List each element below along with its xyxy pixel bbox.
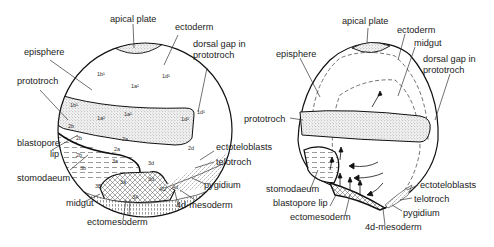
cell-1d1: 1d¹ (162, 73, 170, 79)
cell-2b: 2b (68, 123, 74, 129)
cell-4D: 4D (159, 186, 166, 192)
label-episphere-right: episphere (276, 49, 316, 59)
label-ectomesoderm-right: ectomesoderm (290, 212, 351, 222)
cell-4d: 4d (172, 184, 178, 190)
label-apical-plate-left: apical plate (110, 14, 156, 24)
cell-2d: 2d (188, 145, 194, 151)
label-pygidium-right: pygidium (403, 208, 440, 218)
prototroch-band-right (300, 111, 430, 142)
cell-3A: 3A (132, 194, 139, 200)
cell-1b1-prototroch: 1b¹ (70, 102, 78, 108)
cell-2a: 2a (122, 136, 129, 142)
right-embryo: apical plate ectoderm midgut episphere d… (244, 16, 477, 232)
ectomesoderm-region-right (330, 183, 385, 210)
label-stomodaeum-left: stomodaeum (17, 173, 70, 183)
label-midgut-right: midgut (414, 38, 442, 48)
cell-3B: 3B (95, 183, 102, 189)
ectoteloblast-region-right (385, 185, 412, 208)
label-blastopore-left-2: lip (50, 149, 59, 159)
cell-1a1: 1a¹ (131, 83, 139, 89)
label-telotroch-left: telotroch (216, 157, 251, 167)
cell-2b-3: 2b (76, 152, 82, 158)
label-4d-mesoderm-left: 4d-mesoderm (176, 200, 233, 210)
cell-1b1: 1b¹ (97, 71, 105, 77)
apical-plate-region-right (352, 42, 390, 52)
label-dorsal-gap-right-2: prototroch (423, 65, 464, 75)
label-blastopore-left-1: blastopore (17, 138, 60, 148)
label-ectoteloblasts-left: ectoteloblasts (216, 142, 273, 152)
label-dorsal-gap-left-1: dorsal gap in (193, 39, 246, 49)
cell-1a2: 1a² (97, 115, 105, 121)
label-ectomesoderm-left: ectomesoderm (87, 217, 148, 227)
cell-3d: 3d (148, 160, 154, 166)
label-episphere-left: episphere (24, 47, 64, 57)
label-blastopore-lip-right: blastopore lip (273, 198, 328, 208)
label-dorsal-gap-left-2: prototroch (193, 50, 234, 60)
cell-3b: 3b (80, 165, 86, 171)
label-telotroch-right: telotroch (414, 194, 449, 204)
cell-3a: 3a (112, 158, 119, 164)
label-prototroch-right: prototroch (244, 114, 285, 124)
label-4d-mesoderm-right: 4d-mesoderm (365, 222, 422, 232)
left-embryo: 1b¹ 1a¹ 1d¹ 1d¹ 1b¹ 1a² 1a¹ 1d² 2b 2b 2a… (17, 14, 273, 230)
cell-2a-2: 2a (114, 146, 121, 152)
cell-3d-2: 3d (148, 176, 154, 182)
label-stomodaeum-right: stomodaeum (266, 184, 319, 194)
cell-1d2: 1d² (181, 116, 189, 122)
label-ectoderm-right: ectoderm (397, 25, 436, 35)
label-pygidium-left: pygidium (204, 180, 241, 190)
migration-arrows (330, 91, 383, 196)
label-ectoderm-left: ectoderm (175, 22, 214, 32)
label-midgut-left: midgut (66, 198, 94, 208)
diagram-canvas: 1b¹ 1a¹ 1d¹ 1d¹ 1b¹ 1a² 1a¹ 1d² 2b 2b 2a… (0, 0, 494, 247)
stomodaeum-region-right (304, 147, 339, 183)
label-dorsal-gap-right-1: dorsal gap in (423, 54, 476, 64)
cell-1a1-prototroch: 1a¹ (124, 111, 132, 117)
label-apical-plate-right: apical plate (342, 16, 388, 26)
label-prototroch-left: prototroch (17, 76, 58, 86)
label-ectoteloblasts-right: ectoteloblasts (420, 180, 477, 190)
cell-3a-2: 3a (120, 179, 127, 185)
